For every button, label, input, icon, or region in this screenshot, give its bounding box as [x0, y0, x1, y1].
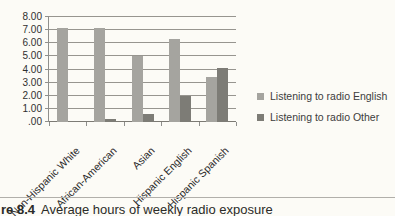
x-axis-tick: [124, 122, 125, 126]
figure-page: .001.002.003.004.005.006.007.008.00Non-H…: [0, 0, 395, 216]
x-axis-tick: [86, 122, 87, 126]
y-axis-tick: [45, 82, 49, 83]
y-axis-tick-label: 3.00: [2, 78, 42, 88]
bar: [180, 96, 191, 122]
y-axis-tick-label: 5.00: [2, 51, 42, 61]
plot-area: .001.002.003.004.005.006.007.008.00Non-H…: [48, 17, 236, 122]
gridline: [49, 69, 236, 70]
x-axis-tick: [49, 122, 50, 126]
bar: [57, 28, 68, 123]
y-axis-tick: [45, 69, 49, 70]
y-axis-tick-label: 2.00: [2, 91, 42, 101]
gridline: [49, 29, 236, 30]
y-axis-tick: [45, 95, 49, 96]
x-axis-tick: [199, 122, 200, 126]
y-axis-tick: [45, 55, 49, 56]
bar: [143, 114, 154, 122]
bar: [68, 121, 79, 122]
y-axis-tick-label: 8.00: [2, 12, 42, 22]
figure-caption: re 8.4Average hours of weekly radio expo…: [1, 202, 394, 216]
bar: [105, 119, 116, 122]
y-axis-tick: [45, 29, 49, 30]
figure-caption-text: Average hours of weekly radio exposure: [41, 202, 273, 216]
legend-swatch-other-icon: [257, 114, 264, 121]
bar: [206, 77, 217, 122]
x-axis-tick: [236, 122, 237, 126]
legend-item-other: Listening to radio Other: [257, 111, 387, 123]
y-axis-tick-label: 1.00: [2, 104, 42, 114]
gridline: [49, 16, 236, 17]
chart-legend: Listening to radio English Listening to …: [257, 90, 387, 132]
legend-label-other: Listening to radio Other: [270, 111, 379, 123]
bar: [169, 39, 180, 122]
legend-swatch-english-icon: [257, 93, 264, 100]
y-axis-tick: [45, 16, 49, 17]
y-axis-tick: [45, 42, 49, 43]
bar: [94, 28, 105, 123]
y-axis-tick-label: 6.00: [2, 38, 42, 48]
gridline: [49, 55, 236, 56]
legend-label-english: Listening to radio English: [270, 90, 387, 102]
x-axis-tick: [161, 122, 162, 126]
y-axis-tick-label: 7.00: [2, 25, 42, 35]
bar: [217, 68, 228, 122]
y-axis-tick-label: .00: [2, 117, 42, 127]
gridline: [49, 42, 236, 43]
bar: [132, 56, 143, 122]
legend-item-english: Listening to radio English: [257, 90, 387, 102]
y-axis-tick-label: 4.00: [2, 65, 42, 75]
y-axis-tick: [45, 108, 49, 109]
figure-caption-label: re 8.4: [1, 202, 35, 216]
caption-divider: [0, 197, 395, 198]
